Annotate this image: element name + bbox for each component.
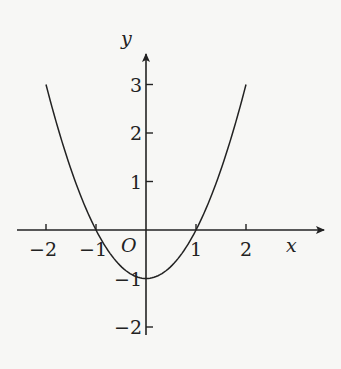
axes [17,54,324,335]
parabola-chart: −2−112 −2−1123 x y O [0,0,341,369]
origin-label: O [121,234,137,256]
x-axis-label: x [286,234,297,256]
y-tick-label: 2 [130,122,142,144]
y-tick-label: 1 [130,171,142,193]
x-tick-label: −2 [29,238,57,260]
y-tick-label: 3 [130,74,142,96]
x-tick-label: 2 [240,238,252,260]
y-tick-label: −1 [114,268,142,290]
y-axis-label: y [120,27,132,49]
y-ticks: −2−1123 [114,74,153,339]
y-tick-label: −2 [114,316,142,338]
x-tick-label: 1 [190,238,202,260]
